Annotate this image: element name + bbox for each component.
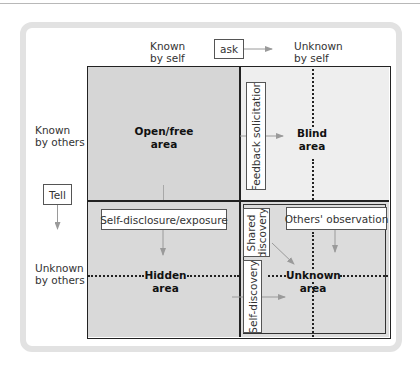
- label-line: discovery: [257, 208, 268, 257]
- self-discovery-label: Self-discovery: [247, 260, 258, 333]
- self-discovery-box: Self-discovery: [243, 260, 262, 333]
- self-disclosure-label: Self-disclosure/exposure: [100, 214, 228, 226]
- self-disclosure-box: Self-disclosure/exposure: [101, 209, 227, 230]
- arrows-overlay: [0, 0, 420, 368]
- label-line: Shared: [246, 208, 257, 257]
- others-observation-label: Others' observation: [285, 213, 389, 225]
- feedback-solicitation-box: Feedback solicitation: [246, 82, 266, 190]
- shared-discovery-arrow: [272, 243, 294, 264]
- shared-discovery-label: Shared discovery: [246, 208, 268, 257]
- others-observation-box: Others' observation: [286, 207, 387, 230]
- feedback-solicitation-label: Feedback solicitation: [251, 82, 262, 190]
- shared-discovery-box: Shared discovery: [243, 208, 270, 257]
